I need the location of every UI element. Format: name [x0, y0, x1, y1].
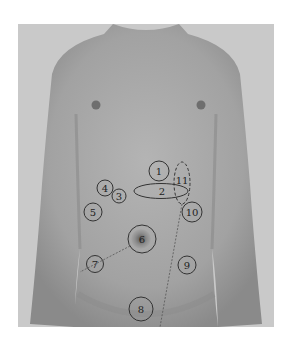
- svg-text:5: 5: [90, 207, 96, 218]
- torso-shape: [30, 24, 262, 327]
- svg-text:10: 10: [186, 207, 199, 218]
- torso-photo: 1 2 3 4 5 6 7: [18, 24, 274, 327]
- svg-text:4: 4: [102, 183, 108, 194]
- svg-text:6: 6: [139, 234, 145, 245]
- left-nipple: [92, 101, 101, 110]
- svg-text:7: 7: [92, 259, 98, 270]
- svg-text:11: 11: [176, 175, 189, 186]
- svg-text:3: 3: [116, 191, 122, 202]
- svg-text:8: 8: [138, 304, 144, 315]
- right-nipple: [197, 101, 206, 110]
- svg-text:2: 2: [159, 186, 165, 197]
- svg-text:1: 1: [156, 166, 162, 177]
- torso-illustration: 1 2 3 4 5 6 7: [18, 24, 274, 327]
- svg-text:9: 9: [184, 260, 190, 271]
